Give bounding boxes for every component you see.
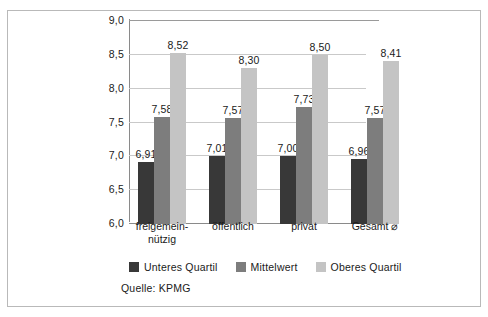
bar: 8,41	[383, 61, 399, 224]
legend-item[interactable]: Unteres Quartil	[129, 261, 218, 273]
bar: 7,73	[296, 107, 312, 224]
legend-item[interactable]: Mittelwert	[236, 261, 298, 273]
y-tick-label: 6,5	[109, 183, 124, 195]
bar: 7,57	[225, 118, 241, 224]
legend-swatch-icon	[129, 262, 139, 272]
y-tick-label: 8,0	[109, 82, 124, 94]
category-label: Gesamt ⌀	[330, 220, 420, 233]
legend-label: Unteres Quartil	[144, 261, 218, 273]
y-axis-line	[129, 19, 130, 222]
bar-value-label: 8,52	[167, 39, 188, 51]
chart-figure: 9,08,58,07,57,06,56,0 6,917,588,527,017,…	[7, 10, 481, 307]
y-tick-label: 9,0	[109, 14, 124, 26]
y-tick-label: 8,5	[109, 48, 124, 60]
legend-swatch-icon	[236, 262, 246, 272]
plot-area: 9,08,58,07,57,06,56,0 6,917,588,527,017,…	[129, 19, 379, 224]
bar: 8,50	[312, 55, 328, 224]
y-tick-label: 7,0	[109, 149, 124, 161]
bar: 8,52	[170, 53, 186, 224]
bar: 8,30	[241, 68, 257, 224]
bar: 7,00	[280, 156, 296, 224]
bar-value-label: 8,50	[309, 41, 330, 53]
bar: 7,57	[367, 118, 383, 224]
legend-item[interactable]: Oberes Quartil	[316, 261, 402, 273]
bar-value-label: 8,41	[380, 47, 401, 59]
source-note: Quelle: KPMG	[121, 282, 191, 294]
bar: 6,96	[351, 159, 367, 224]
bar: 7,01	[209, 156, 225, 224]
bar: 6,91	[138, 162, 154, 224]
bar-value-label: 8,30	[238, 54, 259, 66]
y-tick-label: 7,5	[109, 116, 124, 128]
chart-legend: Unteres QuartilMittelwertOberes Quartil	[129, 261, 402, 273]
bar: 7,58	[154, 117, 170, 224]
legend-label: Oberes Quartil	[331, 261, 402, 273]
legend-label: Mittelwert	[251, 261, 298, 273]
gridline-9-0: 9,0	[129, 20, 379, 21]
legend-swatch-icon	[316, 262, 326, 272]
